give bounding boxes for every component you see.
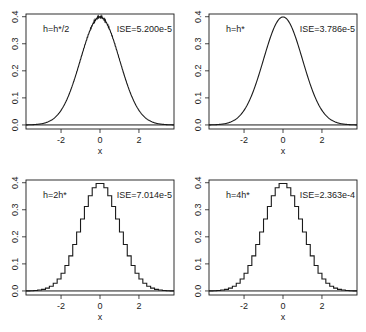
x-axis-label: x xyxy=(281,146,286,156)
x-axis-label: x xyxy=(281,312,286,322)
ise-label: ISE=3.786e-5 xyxy=(300,24,355,34)
y-tick-label: 0.4 xyxy=(193,176,203,189)
panel-top-left: 0.00.10.20.30.4-202xh=h*/2ISE=5.200e-5 xyxy=(0,0,183,166)
x-axis-label: x xyxy=(98,312,103,322)
y-tick-label: 0.3 xyxy=(10,38,20,51)
x-tick-label: -2 xyxy=(240,135,248,145)
bandwidth-label: h=4h* xyxy=(226,190,250,200)
panel-top-right: 0.00.10.20.30.4-202xh=h*ISE=3.786e-5 xyxy=(183,0,366,166)
y-tick-label: 0.1 xyxy=(193,258,203,271)
y-tick-label: 0.0 xyxy=(10,119,20,132)
x-tick-label: 2 xyxy=(319,135,324,145)
ise-label: ISE=5.200e-5 xyxy=(117,24,172,34)
panel-bottom-right: 0.00.10.20.30.4-202xh=4h*ISE=2.363e-4 xyxy=(183,166,366,332)
x-tick-label: -2 xyxy=(57,301,65,311)
x-tick-label: 2 xyxy=(136,135,141,145)
y-tick-label: 0.4 xyxy=(10,176,20,189)
panel-bottom-left: 0.00.10.20.30.4-202xh=2h*ISE=7.014e-5 xyxy=(0,166,183,332)
y-tick-label: 0.0 xyxy=(193,119,203,132)
plot-h-4star: 0.00.10.20.30.4-202xh=4h*ISE=2.363e-4 xyxy=(183,166,366,332)
y-tick-label: 0.1 xyxy=(193,92,203,105)
x-tick-label: 2 xyxy=(319,301,324,311)
x-tick-label: -2 xyxy=(57,135,65,145)
figure-2x2-density-plots: 0.00.10.20.30.4-202xh=h*/2ISE=5.200e-5 0… xyxy=(0,0,366,332)
y-tick-label: 0.3 xyxy=(10,204,20,217)
y-tick-label: 0.2 xyxy=(10,65,20,78)
y-tick-label: 0.1 xyxy=(10,258,20,271)
bandwidth-label: h=2h* xyxy=(43,190,67,200)
plot-h-star: 0.00.10.20.30.4-202xh=h*ISE=3.786e-5 xyxy=(183,0,366,166)
x-tick-label: 0 xyxy=(97,135,102,145)
x-tick-label: 2 xyxy=(136,301,141,311)
y-tick-label: 0.3 xyxy=(193,38,203,51)
y-tick-label: 0.0 xyxy=(193,285,203,298)
x-axis-label: x xyxy=(98,146,103,156)
ise-label: ISE=7.014e-5 xyxy=(117,190,172,200)
plot-h-half: 0.00.10.20.30.4-202xh=h*/2ISE=5.200e-5 xyxy=(0,0,183,166)
y-tick-label: 0.2 xyxy=(193,65,203,78)
y-tick-label: 0.2 xyxy=(10,231,20,244)
y-tick-label: 0.4 xyxy=(193,10,203,23)
bandwidth-label: h=h* xyxy=(226,24,245,34)
x-tick-label: 0 xyxy=(280,135,285,145)
x-tick-label: 0 xyxy=(97,301,102,311)
y-tick-label: 0.2 xyxy=(193,231,203,244)
ise-label: ISE=2.363e-4 xyxy=(300,190,355,200)
y-tick-label: 0.3 xyxy=(193,204,203,217)
bandwidth-label: h=h*/2 xyxy=(43,24,69,34)
x-tick-label: -2 xyxy=(240,301,248,311)
plot-h-2star: 0.00.10.20.30.4-202xh=2h*ISE=7.014e-5 xyxy=(0,166,183,332)
y-tick-label: 0.1 xyxy=(10,92,20,105)
y-tick-label: 0.0 xyxy=(10,285,20,298)
y-tick-label: 0.4 xyxy=(10,10,20,23)
x-tick-label: 0 xyxy=(280,301,285,311)
